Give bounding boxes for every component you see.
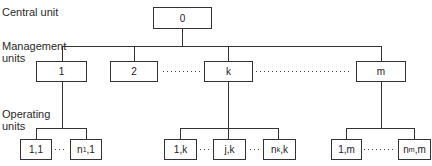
operating-box-1-1: 1,1 xyxy=(20,139,52,160)
management-box-k: k xyxy=(204,61,253,82)
central-unit-box: 0 xyxy=(153,7,212,29)
operating-box-n1-1: n1,1 xyxy=(70,139,102,160)
central-unit-label: Central unit xyxy=(2,6,58,18)
operating-box-nk-k: nk,k xyxy=(263,139,296,160)
management-box-1: 1 xyxy=(36,61,87,82)
operating-box-j-k: j,k xyxy=(213,139,246,160)
management-label-line1: Management xyxy=(2,40,66,52)
management-box-m: m xyxy=(356,61,406,82)
management-box-2: 2 xyxy=(110,61,158,82)
operating-box-1-k: 1,k xyxy=(164,139,197,160)
operating-label-line2: units xyxy=(2,120,50,132)
operating-box-1-m: 1,m xyxy=(331,139,362,160)
operating-box-nm-m: nm,m xyxy=(398,139,431,160)
operating-label-line1: Operating xyxy=(2,108,50,120)
operating-units-label: Operating units xyxy=(2,108,50,132)
